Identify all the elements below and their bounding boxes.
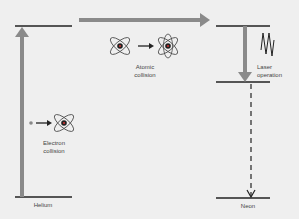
atom-icon: [52, 112, 76, 134]
atom-icon: [156, 34, 180, 58]
neon-label: Neon: [233, 202, 263, 210]
atom-icon: [108, 35, 132, 57]
relaxation-dashed-arrow: [247, 84, 255, 197]
electron-collision-label-line1: Electron: [36, 139, 72, 147]
helium-label: Helium: [28, 201, 58, 209]
laser-operation-label: Laser operation: [257, 63, 297, 79]
energy-diagram-canvas: [0, 0, 299, 219]
energy-transfer-arrow: [79, 13, 210, 27]
electron-dot-icon: [29, 121, 33, 125]
electron-collision-label-line2: collision: [36, 147, 72, 155]
helium-excitation-arrow: [15, 27, 29, 197]
atomic-collision-label-line2: collision: [128, 71, 162, 79]
atomic-collision-label-line1: Atomic: [128, 63, 162, 71]
collision-arrow-icon: [138, 43, 154, 49]
collision-arrow-icon: [36, 120, 52, 126]
electron-collision-label: Electron collision: [36, 139, 72, 155]
laser-operation-label-line2: operation: [257, 71, 297, 79]
wave-icon: [261, 33, 274, 56]
laser-operation-label-line1: Laser: [257, 63, 297, 71]
atomic-collision-label: Atomic collision: [128, 63, 162, 79]
laser-transition-arrow: [238, 26, 252, 82]
